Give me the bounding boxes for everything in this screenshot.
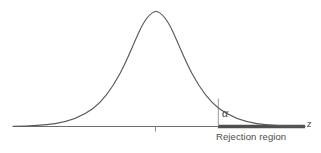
normal-curve (13, 11, 305, 126)
normal-distribution-figure: α z Rejection region (0, 0, 321, 153)
alpha-label: α (222, 107, 228, 119)
rejection-region-label: Rejection region (216, 132, 286, 142)
x-axis-label: z (307, 118, 311, 129)
